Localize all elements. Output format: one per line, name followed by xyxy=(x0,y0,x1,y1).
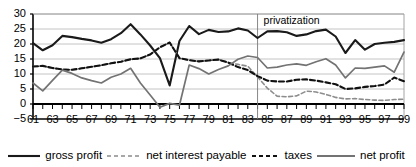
legend-swatch-net-profit xyxy=(316,151,356,161)
x-axis-tick-label: 93 xyxy=(336,114,354,125)
chart-container: 302520151050−5 6163656769717375777981838… xyxy=(0,0,416,167)
legend-item-net-interest-payable: net interest payable xyxy=(106,150,250,162)
legend-label-taxes: taxes xyxy=(281,150,317,162)
series-line-net-interest-payable xyxy=(33,43,404,101)
x-axis-tick-label: 67 xyxy=(83,114,101,125)
y-axis-tick-label: 25 xyxy=(0,23,26,34)
x-axis-tick-label: 69 xyxy=(102,114,120,125)
y-axis-tick-label: −5 xyxy=(0,113,26,124)
legend-swatch-gross-profit xyxy=(7,151,41,161)
x-axis-tick-label: 83 xyxy=(239,114,257,125)
x-axis-tick-label: 99 xyxy=(395,114,413,125)
axes xyxy=(30,14,404,119)
x-axis-tick-label: 79 xyxy=(200,114,218,125)
x-axis-tick-label: 91 xyxy=(317,114,335,125)
x-axis-tick-label: 61 xyxy=(24,114,42,125)
x-axis-tick-label: 65 xyxy=(63,114,81,125)
series-line-gross-profit xyxy=(33,24,404,85)
x-axis-tick-label: 71 xyxy=(122,114,140,125)
chart-legend: gross profit net interest payable taxes … xyxy=(0,144,416,167)
legend-label-net-profit: net profit xyxy=(356,150,409,162)
x-axis-tick-label: 95 xyxy=(356,114,374,125)
x-axis-tick-label: 97 xyxy=(375,114,393,125)
chart-plot-area xyxy=(0,0,416,167)
x-axis-tick-label: 63 xyxy=(44,114,62,125)
x-axis-tick-label: 75 xyxy=(161,114,179,125)
legend-swatch-taxes xyxy=(251,151,281,161)
y-axis-tick-label: 10 xyxy=(0,68,26,79)
legend-item-taxes: taxes xyxy=(251,150,317,162)
x-axis-tick-label: 89 xyxy=(297,114,315,125)
x-axis-tick-label: 73 xyxy=(141,114,159,125)
legend-swatch-net-interest-payable xyxy=(106,151,142,161)
y-axis-tick-label: 30 xyxy=(0,8,26,19)
y-axis-tick-label: 0 xyxy=(0,98,26,109)
y-axis-tick-label: 15 xyxy=(0,53,26,64)
x-axis-tick-label: 77 xyxy=(180,114,198,125)
y-axis-tick-label: 20 xyxy=(0,38,26,49)
x-axis-tick-label: 87 xyxy=(278,114,296,125)
legend-item-gross-profit: gross profit xyxy=(7,150,106,162)
legend-label-net-interest-payable: net interest payable xyxy=(142,150,250,162)
x-axis-tick-label: 81 xyxy=(219,114,237,125)
data-series-group xyxy=(33,24,404,107)
x-axis-tick-label: 85 xyxy=(258,114,276,125)
legend-item-net-profit: net profit xyxy=(316,150,409,162)
y-axis-tick-label: 5 xyxy=(0,83,26,94)
privatization-annotation-label: privatization xyxy=(264,14,320,26)
legend-label-gross-profit: gross profit xyxy=(41,150,106,162)
